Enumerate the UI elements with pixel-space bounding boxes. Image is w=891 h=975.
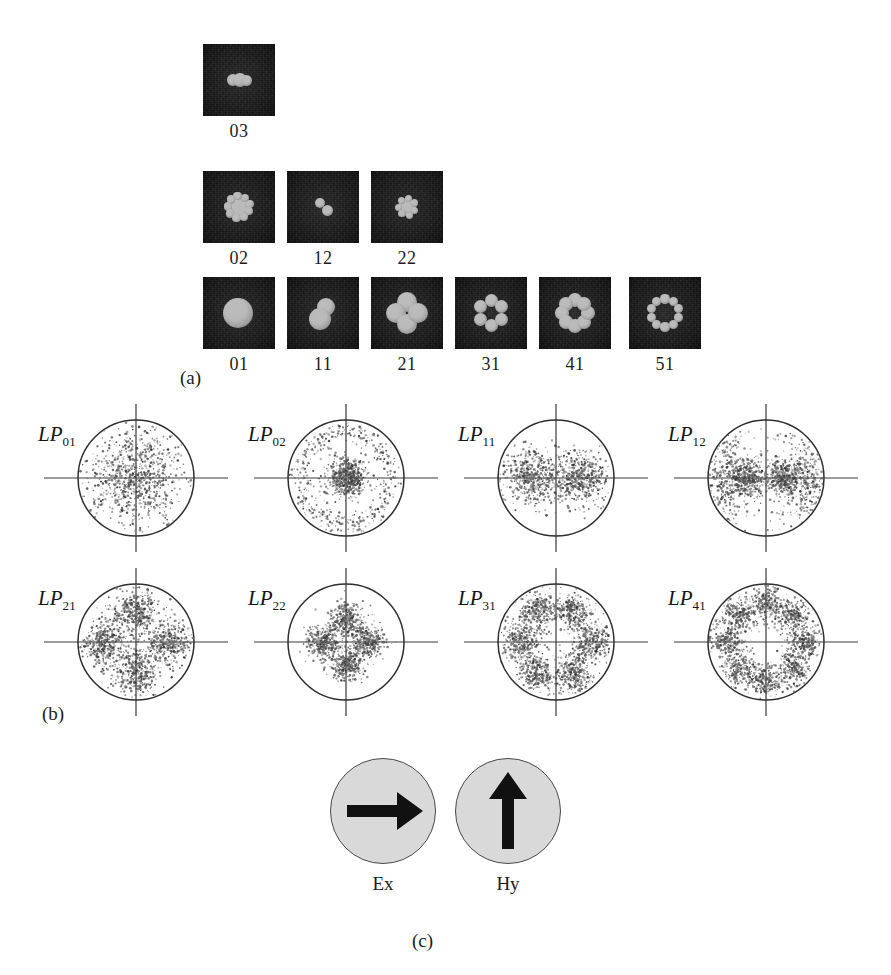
lp-label-subscript: 22 bbox=[273, 598, 287, 613]
lp-label-subscript: 31 bbox=[483, 598, 497, 613]
mode-image-01 bbox=[203, 277, 275, 349]
mode-cell-31: 31 bbox=[455, 277, 527, 375]
mode-caption-51: 51 bbox=[629, 354, 701, 375]
panel-label-c: (c) bbox=[412, 930, 433, 952]
lp-mode-cell-LP22: LP22 bbox=[244, 564, 454, 724]
polarization-circle-Hy bbox=[455, 758, 561, 864]
lp-mode-cell-LP01: LP01 bbox=[34, 400, 244, 560]
mode-caption-22: 22 bbox=[371, 248, 443, 269]
mode-image-02 bbox=[203, 171, 275, 243]
image-vignette bbox=[287, 277, 359, 349]
mode-image-51 bbox=[629, 277, 701, 349]
image-vignette bbox=[539, 277, 611, 349]
lp-mode-cell-LP41: LP41 bbox=[664, 564, 874, 724]
polarization-caption-Hy: Hy bbox=[455, 873, 561, 895]
lp-mode-cell-LP12: LP12 bbox=[664, 400, 874, 560]
panel-label-b: (b) bbox=[42, 703, 64, 725]
lp-mode-label-02: LP02 bbox=[248, 422, 286, 450]
image-vignette bbox=[455, 277, 527, 349]
lp-label-prefix: LP bbox=[458, 586, 483, 610]
speckle-point-cloud bbox=[288, 422, 402, 532]
lp-label-prefix: LP bbox=[458, 422, 483, 446]
mode-cell-03: 03 bbox=[203, 44, 275, 142]
mode-caption-11: 11 bbox=[287, 354, 359, 375]
lp-label-subscript: 41 bbox=[693, 598, 707, 613]
lp-mode-label-41: LP41 bbox=[668, 586, 706, 614]
panel-b-far-field-speckle: LP01LP02LP11LP12LP21LP22LP31LP41 bbox=[0, 392, 891, 732]
mode-cell-51: 51 bbox=[629, 277, 701, 375]
mode-cell-01: 01 bbox=[203, 277, 275, 375]
image-vignette bbox=[203, 171, 275, 243]
panel-label-a: (a) bbox=[180, 367, 201, 389]
image-vignette bbox=[371, 277, 443, 349]
lp-label-subscript: 21 bbox=[63, 598, 77, 613]
lp-mode-cell-LP11: LP11 bbox=[454, 400, 664, 560]
lp-mode-label-21: LP21 bbox=[38, 586, 76, 614]
panel-a-near-field-modes: 03021222011121314151 bbox=[0, 0, 891, 390]
image-vignette bbox=[371, 171, 443, 243]
image-vignette bbox=[287, 171, 359, 243]
mode-caption-03: 03 bbox=[203, 121, 275, 142]
lp-mode-label-12: LP12 bbox=[668, 422, 706, 450]
lp-mode-label-22: LP22 bbox=[248, 586, 286, 614]
lp-label-prefix: LP bbox=[38, 586, 63, 610]
mode-caption-31: 31 bbox=[455, 354, 527, 375]
mode-image-21 bbox=[371, 277, 443, 349]
polarization-caption-Ex: Ex bbox=[330, 873, 436, 895]
mode-caption-41: 41 bbox=[539, 354, 611, 375]
polarization-cell-Hy: Hy bbox=[455, 758, 561, 895]
panel-c-polarization: ExHy bbox=[0, 740, 891, 975]
mode-caption-21: 21 bbox=[371, 354, 443, 375]
lp-label-prefix: LP bbox=[38, 422, 63, 446]
arrow-shape bbox=[489, 772, 527, 849]
lp-label-prefix: LP bbox=[668, 422, 693, 446]
lp-mode-label-11: LP11 bbox=[458, 422, 496, 450]
lp-mode-cell-LP21: LP21 bbox=[34, 564, 244, 724]
mode-cell-21: 21 bbox=[371, 277, 443, 375]
lp-label-subscript: 01 bbox=[63, 434, 77, 449]
mode-caption-02: 02 bbox=[203, 248, 275, 269]
image-vignette bbox=[203, 277, 275, 349]
mode-image-12 bbox=[287, 171, 359, 243]
lp-mode-cell-LP31: LP31 bbox=[454, 564, 664, 724]
arrow-shape bbox=[347, 792, 423, 830]
lp-label-prefix: LP bbox=[248, 422, 273, 446]
mode-cell-12: 12 bbox=[287, 171, 359, 269]
mode-image-22 bbox=[371, 171, 443, 243]
lp-label-subscript: 12 bbox=[693, 434, 707, 449]
right-arrow-icon bbox=[331, 759, 435, 863]
image-vignette bbox=[203, 44, 275, 116]
mode-caption-01: 01 bbox=[203, 354, 275, 375]
mode-cell-02: 02 bbox=[203, 171, 275, 269]
mode-image-31 bbox=[455, 277, 527, 349]
polarization-circle-Ex bbox=[330, 758, 436, 864]
lp-mode-label-01: LP01 bbox=[38, 422, 76, 450]
lp-mode-cell-LP02: LP02 bbox=[244, 400, 454, 560]
lp-label-prefix: LP bbox=[248, 586, 273, 610]
mode-cell-22: 22 bbox=[371, 171, 443, 269]
lp-label-subscript: 11 bbox=[483, 434, 496, 449]
lp-label-prefix: LP bbox=[668, 586, 693, 610]
mode-cell-41: 41 bbox=[539, 277, 611, 375]
mode-image-41 bbox=[539, 277, 611, 349]
lp-label-subscript: 02 bbox=[273, 434, 287, 449]
speckle-point-cloud bbox=[498, 439, 609, 519]
polarization-cell-Ex: Ex bbox=[330, 758, 436, 895]
mode-caption-12: 12 bbox=[287, 248, 359, 269]
mode-cell-11: 11 bbox=[287, 277, 359, 375]
up-arrow-icon bbox=[456, 759, 560, 863]
image-vignette bbox=[629, 277, 701, 349]
mode-image-03 bbox=[203, 44, 275, 116]
mode-image-11 bbox=[287, 277, 359, 349]
lp-mode-label-31: LP31 bbox=[458, 586, 496, 614]
speckle-point-cloud bbox=[299, 590, 397, 683]
